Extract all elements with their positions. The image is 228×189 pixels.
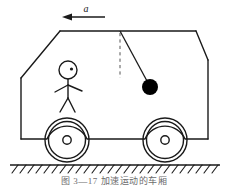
- pendulum: [120, 31, 158, 95]
- van-front-slant: [196, 31, 208, 60]
- front-wheel-rim: [147, 122, 184, 159]
- acceleration-arrow: [62, 14, 105, 21]
- figure-caption: 图 3—17 加速运动的车厢: [0, 176, 228, 187]
- front-wheel: [143, 118, 187, 162]
- acceleration-arrow-head: [62, 14, 72, 21]
- pendulum-string: [120, 31, 147, 81]
- rear-wheel: [45, 118, 89, 162]
- ground-hatching: [12, 165, 218, 173]
- pendulum-bob: [142, 79, 158, 95]
- physics-figure: a 图 3—17 加速运动的车厢: [0, 0, 228, 189]
- passenger-stick-figure: [55, 61, 82, 112]
- passenger-eye: [70, 67, 73, 70]
- passenger-head: [59, 61, 77, 79]
- rear-wheel-hub: [63, 136, 71, 144]
- passenger-left-arm: [55, 85, 68, 92]
- van-rear-slant: [21, 31, 60, 78]
- acceleration-label: a: [84, 3, 89, 14]
- rear-wheel-tire: [45, 118, 89, 162]
- rear-wheel-rim: [49, 122, 86, 159]
- ground: [10, 165, 220, 173]
- van-body: [21, 31, 208, 139]
- front-wheel-hub: [161, 136, 169, 144]
- passenger-right-arm: [68, 85, 82, 91]
- passenger-right-leg: [68, 98, 75, 112]
- front-wheel-tire: [143, 118, 187, 162]
- passenger-left-leg: [60, 98, 68, 112]
- figure-canvas: a: [0, 0, 228, 189]
